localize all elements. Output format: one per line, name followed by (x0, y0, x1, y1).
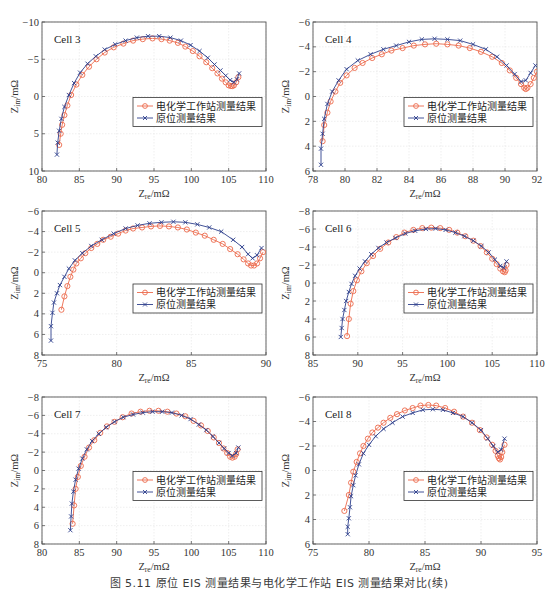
y-tick-label: −6 (28, 410, 39, 421)
y-axis-ticks: −8−6−4−202468 (299, 206, 316, 361)
legend-label-ews: 电化学工作站测量结果 (427, 100, 527, 112)
panel-cell-8: 7580859095−6−4−20246Zre/mΩZim/mΩCell 8电化… (280, 392, 542, 575)
panel-cell-5: 75808590−6−4−202468Zre/mΩZim/mΩCell 5电化学… (9, 206, 271, 386)
x-tick-label: 100 (183, 174, 199, 185)
y-tick-label: 6 (305, 166, 310, 177)
panel-cell-7: 80859095100105110−8−6−4−202468Zre/mΩZim/… (9, 392, 274, 575)
legend-label-ews: 电化学工作站测量结果 (427, 474, 527, 486)
y-tick-label: −4 (299, 41, 311, 52)
y-tick-label: 2 (34, 483, 39, 494)
data-point (94, 54, 98, 58)
y-axis-label: Zim/mΩ (280, 266, 293, 299)
x-axis-label: Zre/mΩ (409, 372, 440, 385)
y-tick-label: 2 (305, 490, 310, 501)
y-tick-label: 0 (305, 91, 310, 102)
x-axis-ticks: 7580859095 (308, 541, 543, 558)
data-point (103, 47, 107, 51)
y-axis-label: Zim/mΩ (9, 454, 22, 487)
data-point (529, 71, 533, 75)
data-point (461, 415, 465, 419)
data-point (356, 58, 360, 62)
panel-cell-4: 7880828486889092−6−4−20246Zre/mΩZim/mΩCe… (280, 17, 542, 202)
cell-label: Cell 4 (325, 33, 352, 45)
data-point (67, 267, 71, 271)
x-tick-label: 84 (404, 174, 415, 185)
x-tick-label: 110 (258, 174, 273, 185)
x-tick-label: 95 (397, 358, 408, 369)
data-point (58, 283, 62, 287)
y-tick-label: 0 (34, 465, 39, 476)
y-tick-label: 6 (305, 332, 310, 343)
x-axis-ticks: 80859095100105110 (37, 541, 274, 558)
x-tick-label: 95 (532, 547, 543, 558)
y-tick-label: 8 (34, 350, 39, 361)
y-tick-label: −4 (299, 416, 311, 427)
legend: 电化学工作站测量结果原位测量结果 (133, 472, 262, 501)
y-tick-label: 2 (305, 116, 310, 127)
y-axis-label: Zim/mΩ (9, 266, 22, 299)
x-tick-label: 85 (74, 547, 85, 558)
data-point (330, 89, 334, 93)
data-point (363, 259, 367, 263)
x-tick-label: 110 (529, 358, 544, 369)
y-tick-label: 8 (305, 350, 310, 361)
y-tick-label: 0 (34, 267, 39, 278)
y-tick-label: −6 (299, 224, 310, 235)
y-tick-label: −8 (299, 206, 310, 217)
x-tick-label: 82 (372, 174, 383, 185)
data-point (369, 252, 373, 256)
y-tick-label: −10 (23, 17, 39, 28)
y-tick-label: −2 (299, 260, 310, 271)
legend-label-insitu: 原位测量结果 (427, 112, 487, 124)
legend-label-insitu: 原位测量结果 (427, 486, 487, 498)
x-tick-label: 80 (364, 547, 375, 558)
y-tick-label: 8 (34, 539, 39, 550)
y-tick-label: 0 (34, 91, 39, 102)
data-point (217, 441, 221, 445)
x-axis-label: Zre/mΩ (409, 188, 440, 201)
data-point (250, 256, 254, 260)
y-axis-label: Zim/mΩ (280, 454, 293, 487)
y-tick-label: 4 (34, 308, 40, 319)
cell-label: Cell 3 (54, 33, 81, 45)
cell-label: Cell 7 (54, 408, 81, 420)
y-tick-label: −8 (28, 392, 39, 403)
y-tick-label: −5 (28, 54, 39, 65)
series-ews (57, 36, 241, 148)
x-tick-label: 105 (221, 547, 237, 558)
data-point (188, 43, 192, 47)
data-point (112, 420, 116, 424)
y-tick-label: 0 (305, 465, 310, 476)
legend: 电化学工作站测量结果原位测量结果 (404, 98, 533, 127)
data-point (504, 259, 508, 263)
x-axis-ticks: 859095100105110 (308, 352, 545, 369)
y-tick-label: −6 (299, 17, 310, 28)
x-tick-label: 90 (353, 358, 364, 369)
y-tick-label: 6 (34, 520, 39, 531)
y-axis-ticks: −8−6−4−202468 (28, 392, 45, 550)
y-axis-label: Zim/mΩ (280, 80, 293, 113)
data-point (224, 74, 228, 78)
x-tick-label: 85 (74, 174, 85, 185)
y-tick-label: 4 (34, 502, 40, 513)
legend-label-ews: 电化学工作站测量结果 (156, 100, 256, 112)
x-tick-label: 110 (258, 547, 273, 558)
data-point (401, 415, 405, 419)
legend-label-ews: 电化学工作站测量结果 (156, 286, 256, 298)
y-tick-label: −4 (299, 242, 311, 253)
y-tick-label: 6 (305, 539, 310, 550)
y-tick-label: 4 (305, 314, 311, 325)
x-axis-label: Zre/mΩ (409, 561, 440, 574)
data-point (345, 67, 349, 71)
cell-label: Cell 6 (325, 222, 352, 234)
data-point (246, 252, 250, 256)
y-tick-label: −6 (299, 392, 310, 403)
figure-caption: 图 5.11 原位 EIS 测量结果与电化学工作站 EIS 测量结果对比(续) (0, 574, 558, 590)
data-point (197, 49, 201, 53)
legend-label-ews: 电化学工作站测量结果 (156, 474, 256, 486)
cell-label: Cell 5 (54, 222, 81, 234)
x-axis-label: Zre/mΩ (138, 188, 169, 201)
data-point (484, 47, 488, 51)
x-tick-label: 85 (186, 358, 197, 369)
